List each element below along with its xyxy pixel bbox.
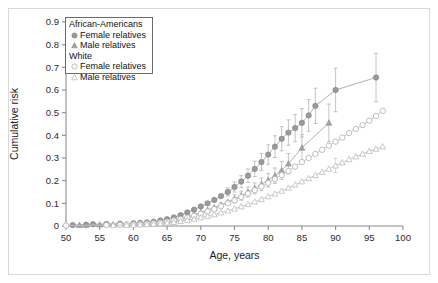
- legend-group-african-americans: African-Americans: [69, 19, 152, 30]
- legend-item-african-male: Male relatives: [69, 40, 152, 51]
- data-point: [340, 135, 345, 140]
- legend-item-white-male: Male relatives: [69, 72, 152, 83]
- data-point: [299, 120, 304, 125]
- series-white-male-relatives: [110, 144, 385, 228]
- x-tick-label: 95: [364, 232, 375, 243]
- data-point: [319, 169, 325, 174]
- data-point: [279, 188, 285, 193]
- data-point: [272, 144, 277, 149]
- data-point: [353, 126, 358, 131]
- data-point: [292, 164, 297, 169]
- data-point: [286, 185, 292, 190]
- data-point: [326, 143, 331, 148]
- data-point: [63, 223, 68, 228]
- x-tick-label: 60: [128, 232, 139, 243]
- data-point: [333, 139, 338, 144]
- figure-container: 5055606570758085909510000.10.20.30.40.50…: [0, 0, 438, 283]
- data-point: [313, 103, 318, 108]
- data-point: [367, 118, 372, 123]
- legend-label-african-male: Male relatives: [80, 40, 136, 51]
- data-point: [198, 204, 203, 209]
- legend-label-white-male: Male relatives: [80, 72, 136, 83]
- data-point: [232, 197, 237, 202]
- data-point: [205, 201, 210, 206]
- data-point: [239, 194, 244, 199]
- x-tick-label: 70: [196, 232, 207, 243]
- y-tick-label: 0: [54, 220, 59, 231]
- y-tick-label: 0.2: [46, 175, 59, 186]
- x-tick-label: 75: [229, 232, 240, 243]
- filled-triangle-icon: [69, 40, 80, 51]
- data-point: [259, 184, 264, 189]
- data-point: [279, 136, 284, 141]
- data-point: [299, 159, 304, 164]
- series-path: [79, 123, 328, 225]
- chart-legend: African-Americans Female relatives Male …: [65, 17, 153, 74]
- data-point: [218, 193, 223, 198]
- data-point: [225, 201, 230, 206]
- data-point: [245, 191, 250, 196]
- y-tick-label: 0.6: [46, 84, 59, 95]
- data-point: [380, 108, 385, 113]
- x-tick-label: 80: [263, 232, 274, 243]
- data-point: [286, 130, 291, 135]
- y-tick-label: 0.4: [46, 130, 59, 141]
- open-triangle-icon: [69, 72, 80, 83]
- y-tick-label: 0.3: [46, 152, 59, 163]
- data-point: [292, 182, 298, 187]
- legend-group-white: White: [69, 51, 152, 62]
- data-point: [306, 175, 312, 180]
- x-tick-label: 65: [162, 232, 173, 243]
- y-tick-label: 0.9: [46, 16, 59, 27]
- y-tick-label: 0.7: [46, 62, 59, 73]
- data-point: [232, 184, 237, 189]
- x-tick-label: 50: [61, 232, 72, 243]
- data-point: [313, 151, 318, 156]
- data-point: [266, 152, 271, 157]
- data-point: [286, 168, 291, 173]
- legend-item-white-female: Female relatives: [69, 61, 152, 72]
- data-point: [373, 113, 378, 118]
- open-circle-icon: [69, 61, 80, 72]
- data-point: [245, 173, 250, 178]
- series-path: [113, 147, 383, 226]
- x-tick-label: 100: [395, 232, 411, 243]
- data-point: [360, 122, 365, 127]
- y-tick-label: 0.1: [46, 198, 59, 209]
- data-point: [380, 144, 386, 149]
- data-point: [326, 166, 332, 171]
- data-point: [272, 191, 278, 196]
- x-tick-label: 90: [330, 232, 341, 243]
- data-point: [292, 125, 297, 130]
- data-point: [218, 204, 223, 209]
- data-point: [346, 130, 351, 135]
- data-point: [252, 166, 257, 171]
- data-point: [239, 179, 244, 184]
- y-tick-label: 0.8: [46, 39, 59, 50]
- data-point: [259, 159, 264, 164]
- data-point: [225, 189, 230, 194]
- data-point: [339, 160, 345, 165]
- data-point: [212, 197, 217, 202]
- filled-circle-icon: [69, 30, 80, 41]
- data-point: [326, 120, 332, 125]
- data-point: [266, 180, 271, 185]
- data-point: [299, 179, 305, 184]
- data-point: [333, 87, 338, 92]
- legend-label-african-female: Female relatives: [80, 30, 146, 41]
- x-tick-label: 85: [297, 232, 308, 243]
- data-point: [313, 172, 319, 177]
- data-point: [272, 176, 277, 181]
- y-tick-label: 0.5: [46, 107, 59, 118]
- x-axis-title: Age, years: [209, 249, 259, 261]
- data-point: [306, 155, 311, 160]
- data-point: [306, 113, 311, 118]
- data-point: [373, 75, 378, 80]
- data-point: [104, 222, 109, 227]
- data-point: [90, 221, 95, 226]
- legend-item-african-female: Female relatives: [69, 30, 152, 41]
- data-point: [252, 187, 257, 192]
- data-point: [319, 147, 324, 152]
- data-point: [279, 172, 284, 177]
- x-tick-label: 55: [94, 232, 105, 243]
